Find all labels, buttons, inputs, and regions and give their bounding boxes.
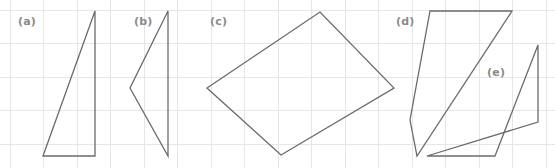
shape-label-d: (d) — [396, 16, 415, 27]
shape-b-triangle-pointing-left[interactable] — [130, 11, 168, 156]
shape-a-right-triangle[interactable] — [43, 11, 95, 156]
shape-label-c: (c) — [210, 16, 227, 27]
shapes-layer — [43, 11, 538, 156]
shape-e-parallelogram[interactable] — [427, 45, 538, 156]
figure-canvas — [0, 0, 555, 168]
geometry-figure: (a) (b) (c) (d) (e) — [0, 0, 555, 168]
shape-label-a: (a) — [18, 16, 36, 27]
shape-label-e: (e) — [487, 67, 505, 78]
shape-c-quadrilateral[interactable] — [207, 12, 394, 155]
shape-label-b: (b) — [134, 16, 153, 27]
